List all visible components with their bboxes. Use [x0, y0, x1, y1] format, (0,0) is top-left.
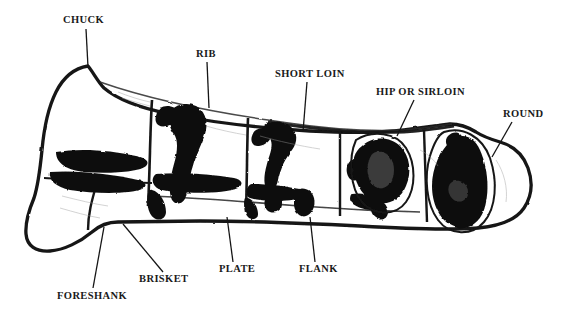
leader-plate	[227, 217, 233, 262]
leader-brisket	[123, 224, 163, 272]
beef-cuts-diagram: CHUCK RIB SHORT LOIN HIP OR SIRLOIN ROUN…	[0, 0, 567, 321]
label-foreshank: FORESHANK	[57, 291, 127, 302]
label-rib: RIB	[196, 49, 216, 60]
leader-rib	[207, 62, 209, 108]
leader-foreshank	[93, 227, 104, 288]
label-round: ROUND	[503, 109, 544, 120]
label-brisket: BRISKET	[139, 274, 189, 285]
label-short-loin: SHORT LOIN	[275, 69, 345, 80]
label-flank: FLANK	[299, 264, 338, 275]
label-hip-or-sirloin: HIP OR SIRLOIN	[376, 87, 465, 98]
carcass-illustration	[0, 0, 567, 321]
label-plate: PLATE	[219, 264, 255, 275]
label-chuck: CHUCK	[63, 15, 104, 26]
leader-chuck	[86, 29, 88, 67]
